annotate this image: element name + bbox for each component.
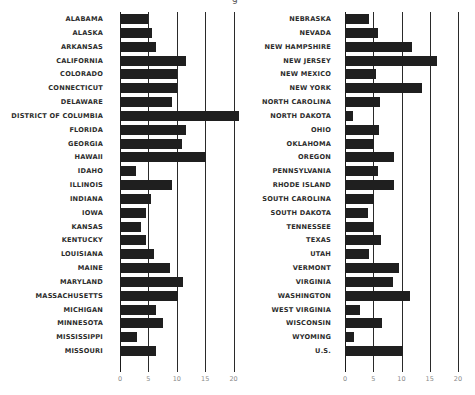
bar-row: MINNESOTA bbox=[0, 316, 240, 330]
bar bbox=[120, 277, 183, 287]
bar-row: WEST VIRGINIA bbox=[240, 303, 475, 317]
bar-row: LOUISIANA bbox=[0, 247, 240, 261]
bar-row: COLORADO bbox=[0, 67, 240, 81]
category-label: NEBRASKA bbox=[240, 12, 331, 26]
category-label: VIRGINIA bbox=[240, 275, 331, 289]
category-label: HAWAII bbox=[0, 150, 103, 164]
bar bbox=[120, 111, 239, 121]
bar-row: ARKANSAS bbox=[0, 40, 240, 54]
bar bbox=[120, 83, 177, 93]
category-label: MISSISSIPPI bbox=[0, 330, 103, 344]
bar bbox=[120, 318, 163, 328]
bar bbox=[120, 56, 186, 66]
bar bbox=[120, 291, 178, 301]
bar bbox=[345, 28, 378, 38]
bar-row: NEW HAMPSHIRE bbox=[240, 40, 475, 54]
bar-row: MASSACHUSETTS bbox=[0, 289, 240, 303]
bar-row: MISSOURI bbox=[0, 344, 240, 358]
bar-row: KENTUCKY bbox=[0, 233, 240, 247]
category-label: NORTH CAROLINA bbox=[240, 95, 331, 109]
bar bbox=[345, 291, 410, 301]
bar bbox=[345, 263, 399, 273]
bar bbox=[345, 208, 368, 218]
bar-row: OREGON bbox=[240, 150, 475, 164]
bar bbox=[120, 14, 148, 24]
bar-row: ILLINOIS bbox=[0, 178, 240, 192]
bar-row: WISCONSIN bbox=[240, 316, 475, 330]
category-label: PENNSYLVANIA bbox=[240, 164, 331, 178]
bar-row: OKLAHOMA bbox=[240, 137, 475, 151]
category-label: SOUTH DAKOTA bbox=[240, 206, 331, 220]
category-label: CALIFORNIA bbox=[0, 54, 103, 68]
bar-row: WASHINGTON bbox=[240, 289, 475, 303]
bar bbox=[345, 222, 374, 232]
left-chart-panel: 05101520ALABAMAALASKAARKANSASCALIFORNIAC… bbox=[0, 0, 240, 395]
bar-row: NEW YORK bbox=[240, 81, 475, 95]
bar-row: NORTH DAKOTA bbox=[240, 109, 475, 123]
bar-row: TEXAS bbox=[240, 233, 475, 247]
bar-row: MARYLAND bbox=[0, 275, 240, 289]
category-label: NORTH DAKOTA bbox=[240, 109, 331, 123]
bar-row: IDAHO bbox=[0, 164, 240, 178]
bar bbox=[120, 125, 186, 135]
bar bbox=[120, 263, 170, 273]
bar bbox=[345, 125, 379, 135]
category-label: MASSACHUSETTS bbox=[0, 289, 103, 303]
bar-row: NEW MEXICO bbox=[240, 67, 475, 81]
bar-row: ALABAMA bbox=[0, 12, 240, 26]
bar-row: U.S. bbox=[240, 344, 475, 358]
bar bbox=[345, 235, 381, 245]
bar bbox=[345, 166, 378, 176]
category-label: MICHIGAN bbox=[0, 303, 103, 317]
category-label: UTAH bbox=[240, 247, 331, 261]
bar-row: HAWAII bbox=[0, 150, 240, 164]
bar-row: CONNECTICUT bbox=[0, 81, 240, 95]
bar bbox=[120, 42, 156, 52]
bar-row: NEVADA bbox=[240, 26, 475, 40]
bar-row: OHIO bbox=[240, 123, 475, 137]
category-label: WISCONSIN bbox=[240, 316, 331, 330]
category-label: DISTRICT OF COLUMBIA bbox=[0, 109, 103, 123]
bar bbox=[120, 194, 151, 204]
bar-row: PENNSYLVANIA bbox=[240, 164, 475, 178]
category-label: TEXAS bbox=[240, 233, 331, 247]
category-label: NEW MEXICO bbox=[240, 67, 331, 81]
bar-row: TENNESSEE bbox=[240, 220, 475, 234]
x-tick-label: 0 bbox=[343, 375, 347, 383]
bar bbox=[345, 180, 394, 190]
bar-row: NORTH CAROLINA bbox=[240, 95, 475, 109]
bar bbox=[345, 318, 382, 328]
bar bbox=[120, 222, 141, 232]
category-label: ALASKA bbox=[0, 26, 103, 40]
x-tick-label: 15 bbox=[201, 375, 209, 383]
category-label: FLORIDA bbox=[0, 123, 103, 137]
bar-row: MICHIGAN bbox=[0, 303, 240, 317]
bar bbox=[345, 42, 412, 52]
bar-row: VERMONT bbox=[240, 261, 475, 275]
bar-row: VIRGINIA bbox=[240, 275, 475, 289]
bar-row: DISTRICT OF COLUMBIA bbox=[0, 109, 240, 123]
bar-row: WYOMING bbox=[240, 330, 475, 344]
category-label: MISSOURI bbox=[0, 344, 103, 358]
bar-row: NEW JERSEY bbox=[240, 54, 475, 68]
bar bbox=[120, 235, 146, 245]
bar-row: SOUTH DAKOTA bbox=[240, 206, 475, 220]
bar bbox=[120, 346, 156, 356]
bar bbox=[345, 56, 437, 66]
category-label: OKLAHOMA bbox=[240, 137, 331, 151]
bar bbox=[345, 14, 369, 24]
bar-row: KANSAS bbox=[0, 220, 240, 234]
bar bbox=[120, 139, 182, 149]
category-label: TENNESSEE bbox=[240, 220, 331, 234]
category-label: SOUTH CAROLINA bbox=[240, 192, 331, 206]
bar bbox=[120, 166, 136, 176]
bar bbox=[345, 152, 394, 162]
category-label: INDIANA bbox=[0, 192, 103, 206]
right-chart-panel: 05101520NEBRASKANEVADANEW HAMPSHIRENEW J… bbox=[240, 0, 475, 395]
bar-row: SOUTH CAROLINA bbox=[240, 192, 475, 206]
bar-row: CALIFORNIA bbox=[0, 54, 240, 68]
bar-row: MISSISSIPPI bbox=[0, 330, 240, 344]
category-label: NEVADA bbox=[240, 26, 331, 40]
bar-row: MAINE bbox=[0, 261, 240, 275]
bar bbox=[120, 332, 137, 342]
